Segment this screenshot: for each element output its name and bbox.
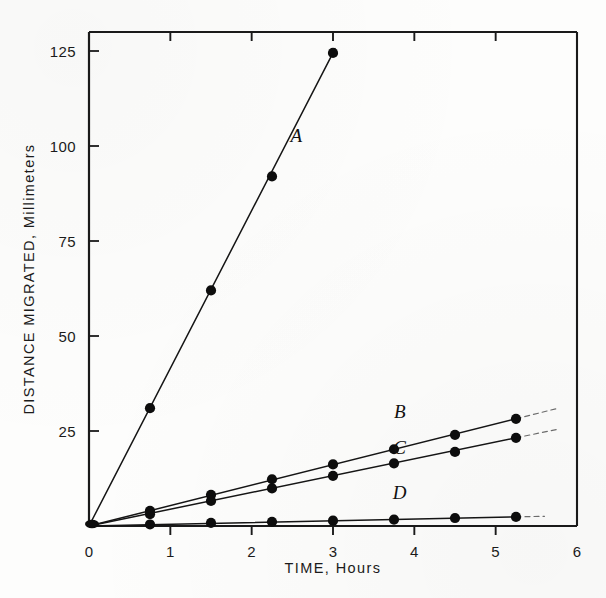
x-tick-label-6: 6 — [573, 543, 582, 560]
x-tick-label-4: 4 — [410, 543, 419, 560]
plot-frame — [89, 32, 577, 526]
figure-canvas: 0123456 255075100125 ABCD TIME, Hours DI… — [0, 0, 606, 598]
series-B-dashed-extension — [516, 409, 557, 419]
series-A-point-2 — [206, 285, 216, 295]
series-C-point-5 — [389, 458, 399, 468]
series-C — [89, 429, 557, 526]
x-tick-label-3: 3 — [329, 543, 338, 560]
series-A-point-3 — [267, 171, 277, 181]
x-axis-tick-labels: 0123456 — [85, 543, 582, 560]
series-A — [89, 45, 338, 526]
series-D-point-1 — [145, 519, 155, 529]
y-axis-title: DISTANCE MIGRATED, Millimeters — [21, 143, 37, 414]
origin-ink-blob — [85, 520, 99, 528]
series-C-point-1 — [145, 509, 155, 519]
series-D-point-3 — [267, 517, 277, 527]
y-tick-label-50: 50 — [59, 328, 77, 345]
series-B-point-4 — [328, 459, 338, 469]
series-label-C: C — [393, 437, 406, 458]
series-D-point-5 — [389, 514, 399, 524]
series-label-D: D — [392, 482, 407, 503]
series-label-B: B — [394, 401, 406, 422]
x-axis-ticks — [170, 526, 495, 535]
x-axis-title: TIME, Hours — [285, 560, 382, 576]
series-label-A: A — [289, 125, 303, 146]
x-tick-label-1: 1 — [166, 543, 175, 560]
x-tick-label-5: 5 — [491, 543, 500, 560]
series-B-point-6 — [450, 430, 460, 440]
series-labels-group: ABCD — [289, 125, 407, 502]
series-B-point-3 — [267, 474, 277, 484]
x-tick-label-0: 0 — [85, 543, 94, 560]
y-tick-label-75: 75 — [59, 233, 77, 250]
series-D-point-6 — [450, 513, 460, 523]
series-D-point-4 — [328, 516, 338, 526]
y-axis-tick-labels: 255075100125 — [50, 43, 76, 440]
series-C-point-7 — [511, 433, 521, 443]
series-C-point-3 — [267, 483, 277, 493]
series-D-point-2 — [206, 518, 216, 528]
series-C-dashed-extension — [516, 429, 557, 437]
series-C-point-6 — [450, 447, 460, 457]
migration-line-chart: 0123456 255075100125 ABCD TIME, Hours DI… — [0, 0, 606, 598]
x-tick-label-2: 2 — [247, 543, 256, 560]
data-series-group — [85, 45, 557, 530]
y-tick-label-125: 125 — [50, 43, 76, 60]
series-D-point-7 — [511, 512, 521, 522]
series-C-point-4 — [328, 471, 338, 481]
series-A-point-1 — [145, 403, 155, 413]
y-axis-ticks — [89, 51, 99, 431]
y-tick-label-100: 100 — [50, 138, 76, 155]
x-axis-top-ticks — [170, 32, 495, 41]
series-B — [89, 409, 557, 526]
series-A-point-4 — [328, 48, 338, 58]
series-C-point-2 — [206, 496, 216, 506]
y-tick-label-25: 25 — [59, 423, 77, 440]
series-B-point-7 — [511, 414, 521, 424]
